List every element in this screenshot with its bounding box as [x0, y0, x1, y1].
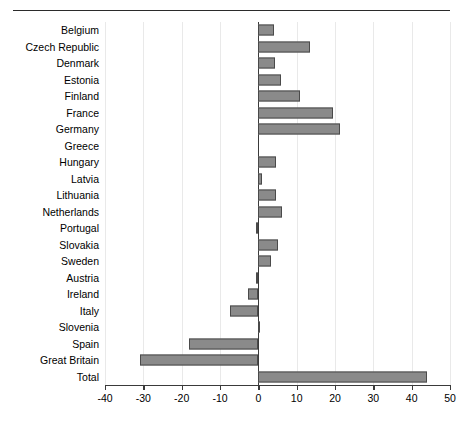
x-tick-label: 30 [367, 392, 379, 404]
x-tick [373, 385, 374, 390]
x-tick-label: 50 [444, 392, 456, 404]
category-label: Latvia [71, 173, 99, 185]
category-label: Belgium [61, 24, 99, 36]
bar-row: Austria [105, 270, 450, 287]
bar-row: Sweden [105, 253, 450, 270]
category-label: Netherlands [42, 206, 99, 218]
bar [258, 124, 339, 135]
bar [140, 355, 259, 366]
bar-row: Czech Republic [105, 39, 450, 56]
category-label: Ireland [67, 288, 99, 300]
bar-row: Estonia [105, 72, 450, 89]
bar [258, 58, 274, 69]
bar [258, 190, 276, 201]
bar [189, 338, 258, 349]
bar [258, 41, 309, 52]
x-tick [143, 385, 144, 390]
bar-row: Portugal [105, 220, 450, 237]
x-tick [450, 385, 451, 390]
x-tick [182, 385, 183, 390]
bar [258, 107, 333, 118]
bar [258, 206, 282, 217]
category-label: Total [77, 371, 99, 383]
bar-row: Germany [105, 121, 450, 138]
bar-row: Ireland [105, 286, 450, 303]
bar [258, 322, 260, 333]
bar-row: France [105, 105, 450, 122]
bar-row: Great Britain [105, 352, 450, 369]
x-tick [258, 385, 259, 390]
x-tick [105, 385, 106, 390]
bar-row: Latvia [105, 171, 450, 188]
bar [256, 272, 258, 283]
top-rule-divider [13, 10, 450, 11]
category-label: Denmark [56, 57, 99, 69]
bar-row: Finland [105, 88, 450, 105]
category-label: Spain [72, 338, 99, 350]
bar [258, 371, 427, 382]
cut-title-text [133, 0, 333, 3]
category-label: France [66, 107, 99, 119]
category-label: Greece [65, 140, 99, 152]
bar [258, 25, 274, 36]
bar-row: Greece [105, 138, 450, 155]
category-label: Slovenia [59, 321, 99, 333]
x-tick-label: 0 [255, 392, 261, 404]
category-label: Italy [80, 305, 99, 317]
category-label: Slovakia [59, 239, 99, 251]
bar-row: Belgium [105, 22, 450, 39]
bar-row: Netherlands [105, 204, 450, 221]
horizontal-bar-chart: BelgiumCzech RepublicDenmarkEstoniaFinla… [0, 18, 458, 418]
x-tick [220, 385, 221, 390]
x-axis: -40-30-20-1001020304050 [105, 385, 450, 386]
category-label: Germany [56, 123, 99, 135]
category-label: Hungary [59, 156, 99, 168]
x-tick-label: -10 [212, 392, 227, 404]
chart-page: BelgiumCzech RepublicDenmarkEstoniaFinla… [0, 0, 458, 428]
category-label: Lithuania [56, 189, 99, 201]
bar-row: Hungary [105, 154, 450, 171]
x-tick-label: 40 [406, 392, 418, 404]
x-tick [335, 385, 336, 390]
x-tick-label: -20 [174, 392, 189, 404]
category-label: Great Britain [40, 354, 99, 366]
bar [258, 256, 271, 267]
category-label: Finland [65, 90, 99, 102]
bar [230, 305, 258, 316]
bar [258, 91, 300, 102]
x-tick-label: -40 [97, 392, 112, 404]
bar [258, 157, 276, 168]
x-tick-label: 10 [291, 392, 303, 404]
category-label: Sweden [61, 255, 99, 267]
bar [258, 173, 262, 184]
category-label: Portugal [60, 222, 99, 234]
bar-row: Italy [105, 303, 450, 320]
category-label: Czech Republic [25, 41, 99, 53]
bar [258, 239, 278, 250]
category-label: Austria [66, 272, 99, 284]
gridline [450, 22, 451, 385]
category-label: Estonia [64, 74, 99, 86]
x-tick-label: 20 [329, 392, 341, 404]
bar-row: Slovakia [105, 237, 450, 254]
bar-row: Total [105, 369, 450, 386]
bar [256, 223, 258, 234]
bar-row: Spain [105, 336, 450, 353]
x-tick [297, 385, 298, 390]
plot-area: BelgiumCzech RepublicDenmarkEstoniaFinla… [105, 22, 450, 385]
bar-row: Slovenia [105, 319, 450, 336]
bar-row: Denmark [105, 55, 450, 72]
bar [258, 74, 281, 85]
x-tick-label: -30 [136, 392, 151, 404]
bar-row: Lithuania [105, 187, 450, 204]
bar [248, 289, 258, 300]
x-tick [412, 385, 413, 390]
